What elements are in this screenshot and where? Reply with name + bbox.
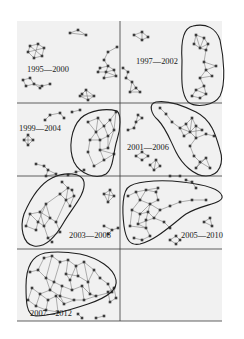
network-node — [141, 117, 144, 120]
network-node — [55, 221, 58, 224]
network-node — [22, 79, 25, 82]
network-node — [141, 31, 144, 34]
network-node — [215, 65, 218, 68]
network-node — [133, 237, 136, 240]
network-node — [129, 225, 132, 228]
network-node — [205, 69, 208, 72]
network-node — [77, 313, 80, 316]
network-node — [133, 127, 136, 130]
network-node — [199, 97, 202, 100]
network-node — [103, 315, 106, 318]
network-node — [205, 93, 208, 96]
network-node — [75, 171, 78, 174]
network-node — [25, 225, 28, 228]
network-node — [63, 303, 66, 306]
network-node — [179, 201, 182, 204]
network-node — [141, 239, 144, 242]
network-node — [149, 235, 152, 238]
network-node — [203, 221, 206, 224]
network-node — [135, 191, 138, 194]
network-node — [147, 211, 150, 214]
network-node — [37, 43, 40, 46]
network-node — [35, 229, 38, 232]
network-node — [195, 137, 198, 140]
network-node — [211, 75, 214, 78]
network-node — [77, 29, 80, 32]
network-node — [49, 114, 52, 117]
network-node — [49, 217, 52, 220]
network-node — [133, 34, 136, 37]
network-node — [35, 305, 38, 308]
network-node — [33, 83, 36, 86]
network-node — [47, 299, 50, 302]
network-node — [103, 125, 106, 128]
network-node — [89, 293, 92, 296]
network-node — [169, 205, 172, 208]
network-node — [44, 119, 47, 122]
network-node — [65, 199, 68, 202]
network-node — [39, 211, 42, 214]
network-node — [139, 213, 142, 216]
network-node — [105, 71, 108, 74]
network-node — [107, 65, 110, 68]
network-node — [31, 287, 34, 290]
network-node — [137, 114, 140, 117]
network-node — [47, 237, 50, 240]
network-node — [27, 134, 30, 137]
period-label-1999-2004: 1999—2004 — [19, 124, 62, 133]
network-node — [103, 159, 106, 162]
network-node — [107, 201, 110, 204]
network-node — [69, 32, 72, 35]
network-node — [69, 205, 72, 208]
network-node — [139, 199, 142, 202]
network-node — [71, 189, 74, 192]
network-node — [87, 151, 90, 154]
network-node — [99, 67, 102, 70]
network-node — [61, 181, 64, 184]
network-node — [209, 217, 212, 220]
network-node — [185, 123, 188, 126]
network-node — [99, 277, 102, 280]
network-node — [127, 71, 130, 74]
network-node — [207, 43, 210, 46]
network-node — [199, 47, 202, 50]
network-node — [107, 147, 110, 150]
network-node — [131, 81, 134, 84]
network-node — [117, 227, 120, 230]
network-node — [205, 49, 208, 52]
period-label-2007-2012: 2007—2012 — [30, 309, 72, 318]
network-node — [85, 34, 88, 37]
network-node — [122, 67, 125, 70]
network-node — [43, 257, 46, 260]
network-node — [81, 317, 84, 320]
network-node — [135, 155, 138, 158]
network-node — [191, 95, 194, 98]
period-label-2001-2006: 2001—2006 — [127, 143, 169, 152]
network-node — [103, 225, 106, 228]
network-node — [195, 167, 198, 170]
network-node — [59, 231, 62, 234]
network-node — [129, 91, 132, 94]
network-node — [87, 121, 90, 124]
network-node — [87, 99, 90, 102]
network-node — [29, 77, 32, 80]
network-node — [45, 203, 48, 206]
network-node — [35, 163, 38, 166]
network-node — [39, 293, 42, 296]
network-node — [73, 299, 76, 302]
network-node — [89, 139, 92, 142]
network-node — [81, 285, 84, 288]
network-node — [159, 107, 162, 110]
network-node — [23, 139, 26, 142]
network-node — [49, 83, 52, 86]
network-node — [199, 161, 202, 164]
network-node — [191, 199, 194, 202]
network-node — [145, 189, 148, 192]
network-node — [73, 195, 76, 198]
network-node — [171, 121, 174, 124]
network-node — [95, 131, 98, 134]
network-node — [169, 239, 172, 242]
network-node — [165, 113, 168, 116]
network-node — [179, 127, 182, 130]
network-node — [61, 285, 64, 288]
